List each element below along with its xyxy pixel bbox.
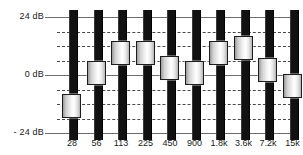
- slider-band-7200[interactable]: [256, 10, 280, 140]
- slider-band-900[interactable]: [183, 10, 207, 140]
- slider-thumb-band-56[interactable]: [87, 61, 106, 85]
- slider-thumb-band-1800[interactable]: [209, 41, 228, 65]
- slider-band-3600[interactable]: [232, 10, 256, 140]
- slider-bank: [0, 0, 302, 155]
- slider-thumb-band-225[interactable]: [136, 41, 155, 65]
- slider-band-28[interactable]: [60, 10, 84, 140]
- slider-band-56[interactable]: [85, 10, 109, 140]
- slider-band-225[interactable]: [134, 10, 158, 140]
- slider-thumb-band-450[interactable]: [160, 56, 179, 80]
- slider-track-band-113[interactable]: [118, 10, 127, 140]
- slider-thumb-band-900[interactable]: [185, 61, 204, 85]
- slider-track-band-1800[interactable]: [216, 10, 225, 140]
- slider-track-band-3600[interactable]: [241, 10, 250, 140]
- slider-band-113[interactable]: [109, 10, 133, 140]
- slider-band-1800[interactable]: [207, 10, 231, 140]
- x-axis-label-band-15000: 15k: [273, 138, 303, 148]
- slider-thumb-band-7200[interactable]: [258, 58, 277, 82]
- slider-thumb-band-28[interactable]: [62, 94, 81, 118]
- slider-thumb-band-113[interactable]: [111, 41, 130, 65]
- slider-band-450[interactable]: [158, 10, 182, 140]
- slider-track-band-225[interactable]: [143, 10, 152, 140]
- slider-track-band-28[interactable]: [69, 10, 78, 140]
- slider-thumb-band-15000[interactable]: [283, 74, 302, 98]
- slider-thumb-band-3600[interactable]: [234, 36, 253, 60]
- equalizer-widget: 24 dB0 dB- 24 dB 28561132254509001.8k3.6…: [0, 0, 302, 155]
- slider-band-15000[interactable]: [281, 10, 303, 140]
